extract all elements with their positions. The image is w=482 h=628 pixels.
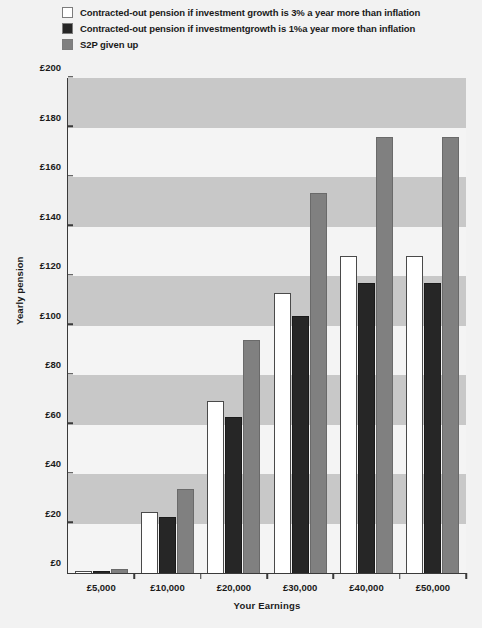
bar[interactable]: [207, 401, 224, 573]
bar[interactable]: [424, 283, 441, 573]
bar-group: [333, 78, 399, 573]
x-axis-tick-mark: [200, 573, 202, 579]
bar-group: [68, 78, 134, 573]
x-axis-tick-label: £30,000: [283, 582, 317, 593]
y-axis-tick-label: £100: [40, 311, 68, 321]
x-axis-tick-label: £10,000: [150, 582, 184, 593]
y-axis-tick-label: £120: [40, 261, 68, 271]
bar[interactable]: [225, 417, 242, 573]
bar[interactable]: [141, 512, 158, 573]
bar[interactable]: [442, 137, 459, 573]
y-axis-tick-label: £180: [40, 113, 68, 123]
x-axis-tick-label: £20,000: [217, 582, 251, 593]
bar[interactable]: [243, 340, 260, 573]
bar[interactable]: [358, 283, 375, 573]
bar[interactable]: [159, 517, 176, 573]
y-axis-tick-label: £200: [40, 63, 68, 73]
y-axis-tick-label: £60: [45, 410, 68, 420]
bar[interactable]: [75, 571, 92, 573]
bar[interactable]: [111, 569, 128, 573]
bar-groups: [68, 78, 466, 573]
x-axis-tick-label: £5,000: [87, 582, 116, 593]
y-axis-tick-label: £0: [50, 558, 68, 568]
y-axis-title: Yearly pension: [14, 257, 25, 325]
bar[interactable]: [274, 293, 291, 573]
bar[interactable]: [93, 571, 110, 573]
bar[interactable]: [406, 256, 423, 573]
bar[interactable]: [310, 193, 327, 573]
x-axis-tick-mark: [333, 573, 335, 579]
bar[interactable]: [376, 137, 393, 573]
bar-group: [400, 78, 466, 573]
y-axis-tick-label: £140: [40, 212, 68, 222]
x-axis-tick-mark: [134, 573, 136, 579]
bar-chart: Yearly pension £0£20£40£60£80£100£120£14…: [0, 0, 482, 628]
bar-group: [201, 78, 267, 573]
bar[interactable]: [292, 316, 309, 573]
bar-group: [134, 78, 200, 573]
y-axis-tick-label: £80: [45, 360, 68, 370]
x-axis-tick-mark: [266, 573, 268, 579]
y-axis-tick-label: £160: [40, 162, 68, 172]
x-axis-tick-mark: [399, 573, 401, 579]
y-axis-tick-label: £40: [45, 459, 68, 469]
plot-area: £0£20£40£60£80£100£120£140£160£180£200 £…: [67, 78, 466, 574]
x-axis-tick-mark: [465, 573, 467, 579]
y-axis-tick-label: £20: [45, 509, 68, 519]
x-axis-title: Your Earnings: [68, 600, 466, 611]
bar[interactable]: [340, 256, 357, 573]
bar[interactable]: [177, 489, 194, 573]
bar-group: [267, 78, 333, 573]
x-axis-tick-label: £40,000: [349, 582, 383, 593]
x-axis-tick-label: £50,000: [416, 582, 450, 593]
